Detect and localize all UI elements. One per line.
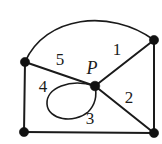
point-label-p: P xyxy=(87,59,98,77)
vertex-bottom-left xyxy=(19,127,28,136)
vertex-center-p xyxy=(90,81,100,91)
edge-center-to-top-right xyxy=(95,40,154,86)
graph-canvas xyxy=(0,0,162,144)
vertex-left xyxy=(20,57,29,66)
vertex-bottom-right xyxy=(149,128,158,137)
region-label-4: 4 xyxy=(39,78,48,95)
region-label-2: 2 xyxy=(125,89,134,106)
edge-bottom-left-to-bottom-right xyxy=(24,132,154,133)
region-label-3: 3 xyxy=(86,110,95,127)
vertex-top-right xyxy=(149,35,158,44)
edge-left-to-bottom-left xyxy=(24,62,25,132)
graph-figure: 12345P xyxy=(0,0,162,144)
region-label-1: 1 xyxy=(113,41,122,58)
region-label-5: 5 xyxy=(56,51,65,68)
